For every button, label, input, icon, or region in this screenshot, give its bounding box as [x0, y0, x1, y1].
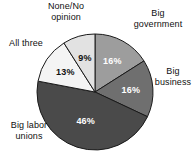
- pie-slice-value: 16%: [122, 85, 141, 95]
- pie-label-big-government: Big government: [126, 8, 190, 29]
- pie-slice-value: 13%: [56, 67, 75, 77]
- pie-label-big-business: Big business: [152, 66, 194, 87]
- pie-label-big-labor-unions: Big labor unions: [0, 120, 58, 141]
- pie-label-none-no-opinion: None/No opinion: [38, 1, 94, 22]
- pie-slice-value: 46%: [76, 116, 95, 126]
- pie-slice-value: 16%: [103, 56, 122, 66]
- pie-slice-value: 9%: [78, 53, 91, 63]
- pie-chart: None/No opinion Big government Big busin…: [0, 0, 195, 161]
- pie-label-all-three: All three: [1, 38, 51, 49]
